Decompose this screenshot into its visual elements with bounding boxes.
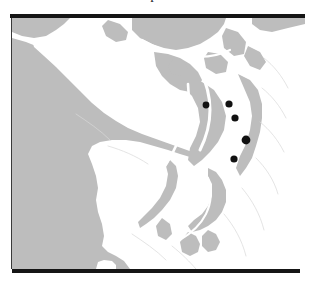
site-marker-3[interactable]	[231, 114, 238, 121]
site-marker-2[interactable]	[225, 100, 232, 107]
site-marker-1[interactable]	[203, 102, 210, 109]
caption-remnant: p	[0, 0, 309, 11]
figure-root: p	[0, 0, 309, 282]
site-marker-5[interactable]	[230, 155, 237, 162]
site-marker-4[interactable]	[242, 136, 251, 145]
map-plate	[12, 18, 305, 269]
bottom-rule	[12, 269, 300, 273]
map-graphic	[12, 18, 305, 269]
